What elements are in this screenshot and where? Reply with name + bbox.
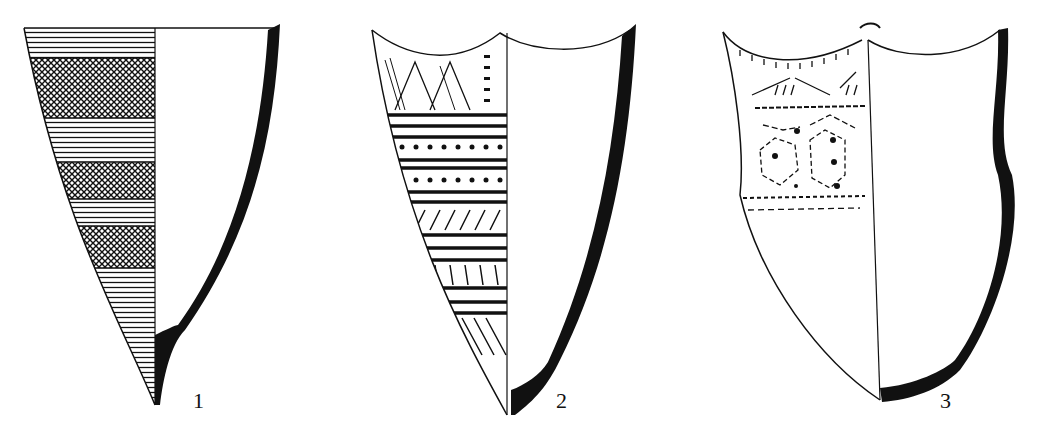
- vessel-3-label: 3: [940, 388, 951, 413]
- vessel-1: 1: [20, 24, 280, 413]
- vessel-1-section: [155, 24, 280, 405]
- vessel-1-decoration: [20, 28, 160, 408]
- vessel-1-label: 1: [193, 388, 204, 413]
- pottery-figure: 1: [0, 0, 1037, 438]
- vessel-2-section: [511, 24, 636, 415]
- vessel-3-decoration: [740, 49, 865, 210]
- vessel-2-label: 2: [556, 388, 567, 413]
- vessel-3: 3: [723, 24, 1015, 414]
- vessel-3-lug: [860, 24, 880, 29]
- vessel-3-section: [880, 28, 1015, 402]
- vessel-2-decoration: [370, 55, 510, 355]
- vessel-2: 2: [370, 24, 636, 415]
